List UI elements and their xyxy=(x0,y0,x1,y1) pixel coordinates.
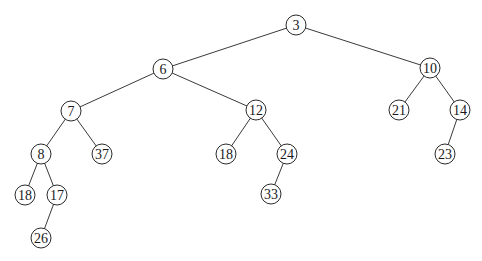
tree-edge xyxy=(71,69,163,111)
node-label: 37 xyxy=(95,147,109,162)
node-label: 14 xyxy=(453,103,467,118)
tree-edge xyxy=(163,69,256,110)
tree-node: 14 xyxy=(450,100,470,120)
tree-node: 6 xyxy=(153,59,173,79)
node-label: 26 xyxy=(34,231,48,246)
tree-node: 33 xyxy=(261,184,281,204)
node-label: 7 xyxy=(68,104,75,119)
nodes-layer: 3610712211483718242318173326 xyxy=(15,15,470,248)
node-label: 18 xyxy=(18,188,32,203)
tree-node: 3 xyxy=(286,15,306,35)
node-label: 21 xyxy=(392,103,406,118)
node-label: 10 xyxy=(423,61,437,76)
node-label: 8 xyxy=(38,147,45,162)
node-label: 12 xyxy=(249,103,263,118)
tree-node: 24 xyxy=(277,144,297,164)
tree-edge xyxy=(163,25,296,69)
tree-node: 21 xyxy=(389,100,409,120)
edges-layer xyxy=(25,25,460,238)
tree-edge xyxy=(296,25,430,68)
tree-node: 17 xyxy=(47,185,67,205)
tree-node: 12 xyxy=(246,100,266,120)
node-label: 6 xyxy=(160,62,167,77)
tree-node: 7 xyxy=(61,101,81,121)
tree-node: 23 xyxy=(435,144,455,164)
tree-node: 10 xyxy=(420,58,440,78)
node-label: 23 xyxy=(438,147,452,162)
node-label: 3 xyxy=(293,18,300,33)
node-label: 18 xyxy=(219,147,233,162)
tree-node: 18 xyxy=(15,185,35,205)
node-label: 33 xyxy=(264,187,278,202)
tree-diagram: 3610712211483718242318173326 xyxy=(0,0,482,261)
tree-node: 18 xyxy=(216,144,236,164)
node-label: 24 xyxy=(280,147,294,162)
tree-node: 8 xyxy=(31,144,51,164)
node-label: 17 xyxy=(50,188,64,203)
tree-node: 37 xyxy=(92,144,112,164)
tree-node: 26 xyxy=(31,228,51,248)
